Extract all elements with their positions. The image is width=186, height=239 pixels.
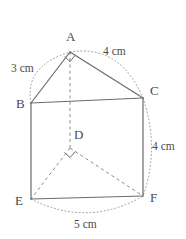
edge-BC (31, 98, 143, 103)
figure-canvas: A B C D E F 3 cm 4 cm 4 cm 5 cm (0, 0, 186, 239)
vertex-label-A: A (66, 29, 76, 44)
measurement-label-EF: 5 cm (74, 218, 97, 230)
visible-edges (31, 52, 143, 199)
vertex-label-B: B (16, 96, 25, 111)
edge-AC (70, 52, 143, 98)
right-angle-marker-D (65, 152, 76, 158)
vertex-label-E: E (15, 193, 23, 208)
vertex-label-D: D (74, 127, 83, 142)
measurement-label-AC: 4 cm (103, 45, 126, 57)
hidden-edges (31, 52, 143, 199)
edge-DE (31, 148, 70, 199)
geometry-diagram: A B C D E F 3 cm 4 cm 4 cm 5 cm (0, 0, 186, 239)
arc-CF (143, 98, 152, 196)
measurement-label-AB: 3 cm (11, 62, 34, 74)
vertex-label-F: F (150, 190, 157, 205)
vertex-labels: A B C D E F (15, 29, 159, 208)
measurement-label-CF: 4 cm (152, 140, 175, 152)
measurement-arcs (30, 51, 151, 213)
edge-AB (31, 52, 70, 103)
edge-EF (31, 196, 143, 199)
vertex-label-C: C (150, 83, 159, 98)
edge-DF (70, 148, 143, 196)
